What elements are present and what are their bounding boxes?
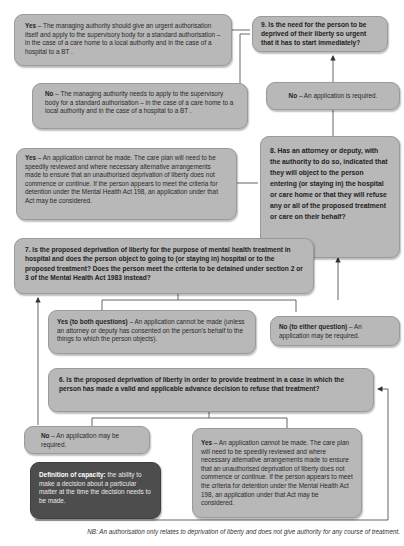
q7-no-box: No (to either question) – An application… — [270, 316, 400, 346]
q9-no-label: No — [45, 90, 54, 97]
question-7-text: 7. Is the proposed deprivation of libert… — [25, 246, 303, 281]
q8-no-box: No – An application is required. — [266, 82, 400, 110]
q8-no-text: – An application is required. — [297, 92, 377, 99]
q9-no-box: No – The managing authority needs to app… — [32, 83, 248, 129]
q6-no-text: – An application may be required. — [41, 432, 119, 448]
q9-yes-text: – The managing authority should give an … — [25, 22, 220, 55]
q6-yes-box: Yes – An application cannot be made. The… — [192, 428, 362, 518]
q9-yes-box: Yes – The managing authority should give… — [14, 14, 232, 66]
q9-no-text: – The managing authority needs to apply … — [45, 90, 233, 114]
question-8-text: 8. Has an attorney or deputy, with the a… — [270, 147, 387, 220]
q8-no-label: No — [289, 92, 298, 99]
footnote: NB: An authorisation only relates to dep… — [0, 528, 400, 535]
q7-yes-label: Yes (to both questions) — [57, 318, 128, 325]
definition-of-capacity-box: Definition of capacity: the ability to m… — [30, 462, 161, 519]
question-7-box: 7. Is the proposed deprivation of libert… — [14, 238, 314, 294]
q6-yes-text: – An application cannot be made. The car… — [201, 439, 353, 506]
q6-yes-label: Yes — [201, 439, 212, 446]
q7-yes-box: Yes (to both questions) – An application… — [48, 310, 256, 354]
q8-yes-label: Yes — [25, 154, 36, 161]
q7-no-label: No (to either question) — [279, 323, 347, 330]
question-6-text: 6. Is the proposed deprivation of libert… — [59, 376, 344, 392]
q9-yes-label: Yes — [25, 22, 36, 29]
q6-no-label: No — [41, 432, 50, 439]
definition-label: Definition of capacity: — [39, 471, 106, 478]
q8-yes-box: Yes – An application cannot be made. The… — [16, 148, 237, 220]
question-9-box: 9. Is the need for the person to be depr… — [252, 16, 388, 52]
q6-no-box: No – An application may be required. — [24, 426, 150, 454]
question-6-box: 6. Is the proposed deprivation of libert… — [48, 368, 374, 412]
q8-yes-text: – An application cannot be made. The car… — [25, 154, 218, 204]
question-9-text: 9. Is the need for the person to be depr… — [261, 21, 367, 46]
